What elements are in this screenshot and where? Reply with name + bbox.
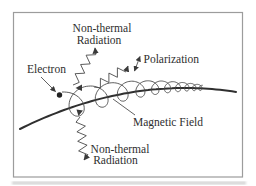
electron-pointer-line — [41, 77, 56, 92]
label-electron: Electron — [27, 63, 66, 75]
polarization-double-arrow — [135, 57, 141, 72]
nonthermal-radiation-wavy-arrow-top — [73, 48, 96, 85]
label-nonthermal-radiation-bottom-line2: Radiation — [93, 154, 138, 166]
synchrotron-radiation-diagram: Non-thermal Radiation Polarization Elect… — [0, 0, 256, 186]
label-nonthermal-radiation-top-line1: Non-thermal — [73, 22, 132, 34]
scan-shadow — [12, 182, 246, 185]
figure-page: Non-thermal Radiation Polarization Elect… — [0, 0, 256, 186]
nonthermal-radiation-wavy-arrow-bottom — [76, 117, 88, 160]
label-polarization: Polarization — [144, 53, 200, 65]
electron-spiral-helix — [62, 81, 203, 116]
label-nonthermal-radiation-top-line2: Radiation — [77, 34, 122, 46]
electron-dot — [57, 92, 62, 97]
label-magnetic-field: Magnetic Field — [133, 116, 203, 129]
gyration-arrowhead-top — [76, 85, 83, 92]
gyration-arrowhead-bottom — [77, 110, 84, 117]
